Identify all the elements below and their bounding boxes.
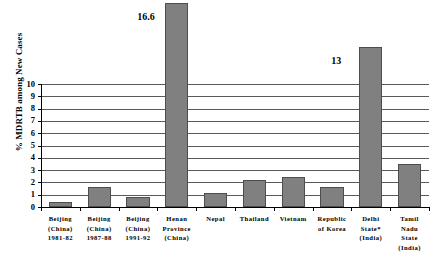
x-tick-label: Vietnam [274, 214, 313, 224]
x-tick-label: DelhiState*(India) [351, 214, 390, 243]
bar [49, 202, 72, 207]
x-tick-label: TamilNaduState(India) [390, 214, 429, 252]
y-tick-label: 7 [9, 116, 35, 125]
bar [165, 3, 188, 207]
bar-value-label: 16.6 [137, 11, 155, 22]
y-tick-label: 8 [9, 104, 35, 113]
y-tick-label: 6 [9, 129, 35, 138]
y-tick-label: 0 [9, 203, 35, 212]
x-tick-label-line: (India) [390, 243, 429, 253]
bar [359, 47, 382, 207]
y-tick-label: 4 [9, 153, 35, 162]
x-tick-label-line: Nepal [196, 214, 235, 224]
x-tick-mark [351, 207, 352, 211]
bar-value-label: 13 [331, 55, 341, 66]
x-tick-label-line: Vietnam [274, 214, 313, 224]
x-tick-label: Republicof Korea [313, 214, 352, 233]
x-tick-label: Beijing(China)1987-88 [80, 214, 119, 243]
x-tick-mark [313, 207, 314, 211]
x-tick-label-line: Tamil [390, 214, 429, 224]
x-tick-mark [429, 207, 430, 211]
y-tick-label: 10 [9, 80, 35, 89]
x-tick-label-line: Nadu [390, 224, 429, 234]
bars-layer [41, 0, 429, 207]
x-tick-mark [196, 207, 197, 211]
bar [243, 180, 266, 207]
x-tick-label-line: (China) [80, 224, 119, 234]
x-tick-label-line: 1981-82 [41, 233, 80, 243]
x-tick-label-line: (China) [119, 224, 158, 234]
x-tick-mark [235, 207, 236, 211]
x-tick-label-line: 1991-92 [119, 233, 158, 243]
x-tick-label: Thailand [235, 214, 274, 224]
x-tick-mark [80, 207, 81, 211]
x-tick-label: HenanProvince(China) [157, 214, 196, 243]
x-tick-label-line: (China) [157, 233, 196, 243]
x-tick-label-line: Beijing [41, 214, 80, 224]
x-tick-label: Beijing(China)1981-82 [41, 214, 80, 243]
x-tick-label-line: Province [157, 224, 196, 234]
x-tick-label-line: Delhi [351, 214, 390, 224]
y-tick-label: 2 [9, 178, 35, 187]
x-tick-mark [390, 207, 391, 211]
x-tick-label-line: (India) [351, 233, 390, 243]
x-tick-label-line: Beijing [80, 214, 119, 224]
x-tick-label-line: Thailand [235, 214, 274, 224]
x-tick-label-line: Henan [157, 214, 196, 224]
x-tick-mark [119, 207, 120, 211]
x-tick-mark [274, 207, 275, 211]
x-tick-mark [41, 207, 42, 211]
y-tick-label: 9 [9, 92, 35, 101]
x-tick-label-line: of Korea [313, 224, 352, 234]
x-tick-label: Beijing(China)1991-92 [119, 214, 158, 243]
y-tick-label: 5 [9, 141, 35, 150]
y-tick-label: 3 [9, 166, 35, 175]
bar [88, 187, 111, 207]
x-tick-mark [157, 207, 158, 211]
x-tick-label-line: State* [351, 224, 390, 234]
bar [282, 177, 305, 207]
bar [398, 164, 421, 207]
x-tick-label-line: Beijing [119, 214, 158, 224]
x-tick-label-line: 1987-88 [80, 233, 119, 243]
x-tick-label-line: Republic [313, 214, 352, 224]
x-tick-label: Nepal [196, 214, 235, 224]
bar [204, 193, 227, 207]
y-tick-label: 1 [9, 190, 35, 199]
x-axis-category-labels: Beijing(China)1981-82Beijing(China)1987-… [41, 214, 429, 259]
x-tick-label-line: State [390, 233, 429, 243]
bar-chart: % MDRTB among New Cases 012345678910 16.… [0, 0, 437, 259]
bar [320, 187, 343, 207]
x-tick-label-line: (China) [41, 224, 80, 234]
bar [126, 197, 149, 207]
